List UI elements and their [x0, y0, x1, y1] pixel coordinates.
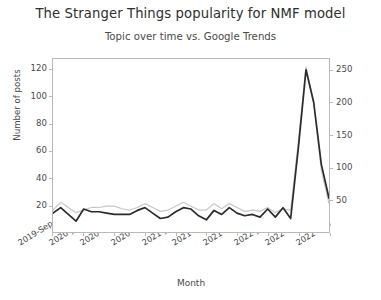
y-axis-right-tickmark-0 [330, 200, 333, 201]
y-axis-left-tick-0: 20 [17, 200, 47, 210]
y-axis-right-tick-3: 200 [336, 97, 366, 107]
y-axis-left-tick-1: 40 [17, 173, 47, 183]
plot-area [52, 58, 330, 233]
x-axis-tick-0: 2019-Sep [16, 221, 50, 247]
series-line-posts [53, 70, 329, 221]
y-axis-left-tick-2: 60 [17, 145, 47, 155]
y-axis-right-tickmark-1 [330, 168, 333, 169]
y-axis-right-tickmark-3 [330, 102, 333, 103]
chart-title: The Stranger Things popularity for NMF m… [0, 6, 381, 21]
y-axis-right-tick-1: 100 [336, 162, 366, 172]
chart-subtitle: Topic over time vs. Google Trends [0, 31, 381, 42]
chart-figure: The Stranger Things popularity for NMF m… [0, 0, 381, 300]
y-axis-left-tick-4: 100 [17, 91, 47, 101]
y-axis-left-tick-5: 120 [17, 63, 47, 73]
y-axis-right-tick-4: 250 [336, 64, 366, 74]
y-axis-right-tick-0: 50 [336, 195, 366, 205]
x-axis-tickmark-9 [330, 233, 331, 236]
series-line-google-trends [53, 67, 329, 213]
x-axis-label: Month [52, 278, 330, 288]
y-axis-right-tickmark-2 [330, 135, 333, 136]
plot-lines [53, 59, 329, 232]
y-axis-right-tickmark-4 [330, 70, 333, 71]
y-axis-right-tick-2: 150 [336, 130, 366, 140]
y-axis-left-tick-3: 80 [17, 118, 47, 128]
